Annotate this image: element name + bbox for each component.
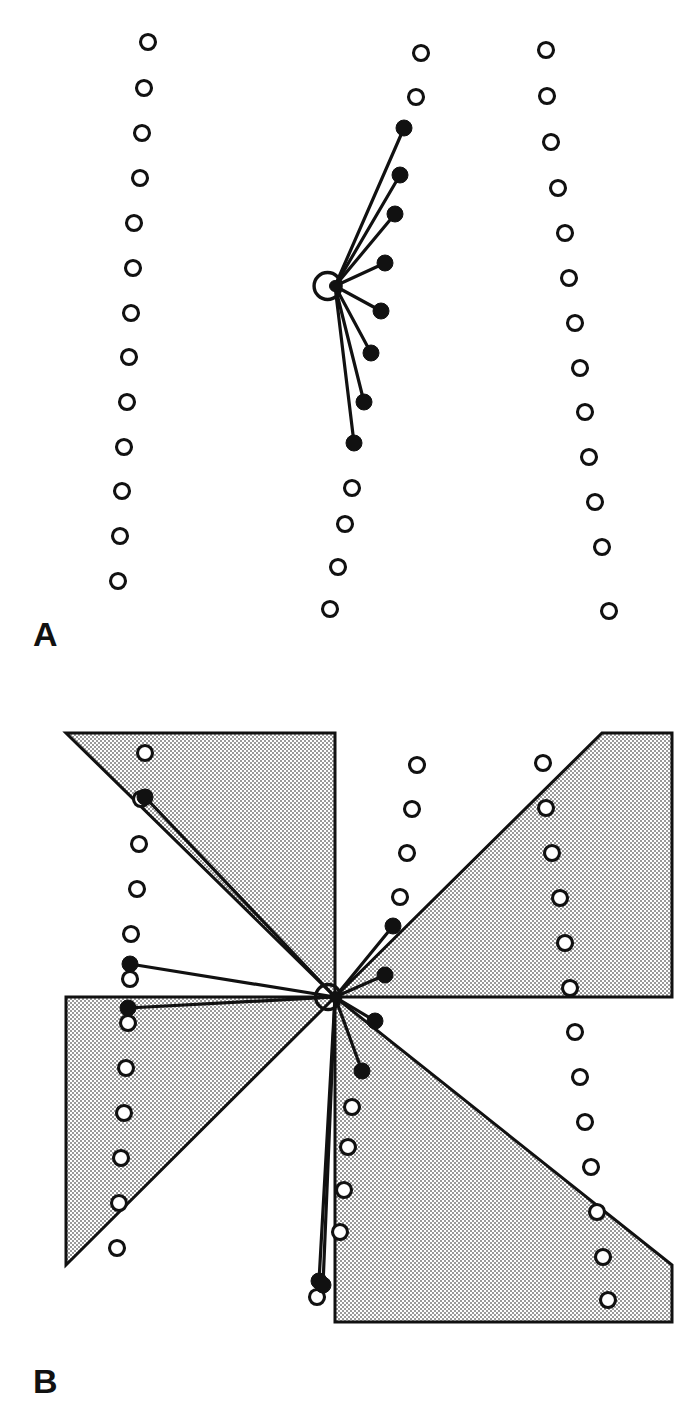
open-circle-node <box>539 801 554 816</box>
open-circle-node <box>553 891 568 906</box>
hub-core <box>330 992 341 1003</box>
open-circle-node <box>544 135 559 150</box>
open-circle-node <box>122 350 137 365</box>
open-circle-node <box>584 1160 599 1175</box>
open-circle-node <box>331 560 346 575</box>
open-circle-node <box>117 440 132 455</box>
open-circle-node <box>135 126 150 141</box>
open-circle-node <box>115 484 130 499</box>
open-circle-node <box>337 1183 352 1198</box>
open-circle-node <box>539 43 554 58</box>
open-circle-node <box>341 1140 356 1155</box>
open-circle-node <box>124 306 139 321</box>
filled-circle-node <box>354 1063 370 1079</box>
open-circle-node <box>551 181 566 196</box>
open-circle-node <box>121 1016 136 1031</box>
panel-a-label: A <box>33 615 58 653</box>
panel-b-label: B <box>33 1362 58 1400</box>
open-circle-node <box>141 35 156 50</box>
open-circle-node <box>119 1061 134 1076</box>
open-circle-node <box>573 361 588 376</box>
open-circle-node <box>588 495 603 510</box>
open-circle-node <box>133 171 148 186</box>
open-circle-node <box>393 890 408 905</box>
open-circle-node <box>563 981 578 996</box>
open-circle-node <box>345 1100 360 1115</box>
open-circle-node <box>545 846 560 861</box>
filled-circle-node <box>137 789 153 805</box>
open-circle-node <box>595 540 610 555</box>
open-circle-node <box>338 517 353 532</box>
open-circle-node <box>602 604 617 619</box>
filled-circle-node <box>346 435 362 451</box>
open-circle-node <box>400 846 415 861</box>
open-circle-node <box>562 271 577 286</box>
open-circle-node <box>414 46 429 61</box>
filled-circle-node <box>385 918 401 934</box>
open-circle-node <box>111 574 126 589</box>
open-circle-node <box>596 1250 611 1265</box>
filled-circle-node <box>315 1277 331 1293</box>
open-circle-node <box>578 405 593 420</box>
filled-circle-node <box>356 394 372 410</box>
open-circle-node <box>126 261 141 276</box>
filled-circle-node <box>392 167 408 183</box>
filled-circle-node <box>373 303 389 319</box>
hub-core <box>330 281 341 292</box>
open-circle-node <box>138 746 153 761</box>
open-circle-node <box>113 529 128 544</box>
open-circle-node <box>132 837 147 852</box>
open-circle-node <box>578 1115 593 1130</box>
filled-circle-node <box>396 120 412 136</box>
open-circle-node <box>123 972 138 987</box>
open-circle-node <box>558 226 573 241</box>
open-circle-node <box>536 756 551 771</box>
open-circle-node <box>127 216 142 231</box>
open-circle-node <box>112 1196 127 1211</box>
open-circle-node <box>558 936 573 951</box>
filled-circle-node <box>367 1013 383 1029</box>
filled-circle-node <box>377 967 393 983</box>
open-circle-node <box>130 882 145 897</box>
open-circle-node <box>540 89 555 104</box>
figure-root: A B <box>0 0 692 1407</box>
open-circle-node <box>573 1070 588 1085</box>
open-circle-node <box>323 602 338 617</box>
filled-circle-node <box>120 1000 136 1016</box>
open-circle-node <box>410 758 425 773</box>
filled-circle-node <box>363 345 379 361</box>
open-circle-node <box>601 1293 616 1308</box>
open-circle-node <box>117 1106 132 1121</box>
open-circle-node <box>568 316 583 331</box>
open-circle-node <box>333 1225 348 1240</box>
open-circle-node <box>114 1151 129 1166</box>
filled-circle-node <box>387 206 403 222</box>
open-circle-node <box>120 395 135 410</box>
open-circle-node <box>405 802 420 817</box>
open-circle-node <box>124 927 139 942</box>
filled-circle-node <box>377 255 393 271</box>
filled-circle-node <box>122 956 138 972</box>
figure-canvas: A B <box>0 0 692 1407</box>
open-circle-node <box>590 1205 605 1220</box>
open-circle-node <box>582 450 597 465</box>
open-circle-node <box>137 81 152 96</box>
open-circle-node <box>110 1241 125 1256</box>
open-circle-node <box>409 90 424 105</box>
open-circle-node <box>568 1025 583 1040</box>
open-circle-node <box>345 481 360 496</box>
